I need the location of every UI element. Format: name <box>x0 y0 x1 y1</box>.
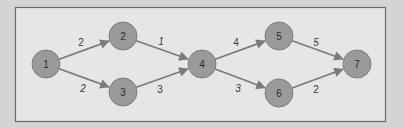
node-label-1: 1 <box>43 59 49 70</box>
node-3: 3 <box>109 78 137 106</box>
edge-label-4-5: 4 <box>233 37 239 48</box>
node-4: 4 <box>188 50 216 78</box>
node-label-3: 3 <box>120 87 126 98</box>
edge-label-4-6: 3 <box>235 83 241 94</box>
network-diagram: 22134352 1234567 <box>0 0 404 128</box>
edge-label-5-7: 5 <box>313 37 319 48</box>
edge-label-2-4: 1 <box>158 36 164 47</box>
node-label-4: 4 <box>199 59 205 70</box>
node-label-6: 6 <box>276 88 282 99</box>
node-1: 1 <box>32 50 60 78</box>
edge-label-1-2: 2 <box>78 37 84 48</box>
edge-label-3-4: 3 <box>157 84 163 95</box>
node-7: 7 <box>343 50 371 78</box>
node-label-7: 7 <box>354 59 360 70</box>
node-5: 5 <box>265 22 293 50</box>
node-2: 2 <box>109 22 137 50</box>
node-label-5: 5 <box>276 31 282 42</box>
node-label-2: 2 <box>120 31 126 42</box>
edge-label-6-7: 2 <box>313 84 319 95</box>
node-6: 6 <box>265 79 293 107</box>
edge-label-1-3: 2 <box>79 83 86 94</box>
